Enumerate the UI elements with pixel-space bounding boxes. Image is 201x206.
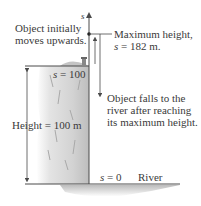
max-height-label: Maximum height, s = 182 m. bbox=[114, 28, 193, 52]
ground-label: s = 0 bbox=[100, 171, 122, 183]
falls-label: Object falls to the river after reaching… bbox=[107, 92, 198, 128]
s-axis-label: s bbox=[81, 10, 85, 22]
river-label: River bbox=[138, 171, 162, 183]
river-surface bbox=[60, 185, 180, 197]
height-label: Height = 100 m bbox=[12, 119, 81, 131]
initial-motion-label: Object initially moves upwards. bbox=[15, 22, 87, 46]
cliff-top-label: s = 100 bbox=[53, 68, 86, 80]
